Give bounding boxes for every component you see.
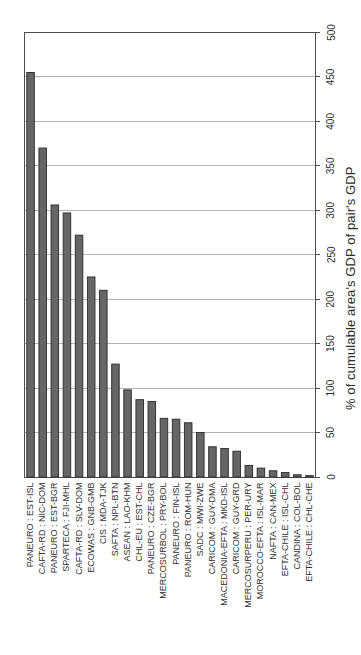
- x-category-label: CARICOM : GUY-DMA: [207, 483, 217, 575]
- x-category-label: PANEURO : CZE-BGR: [146, 482, 156, 574]
- bar: [51, 205, 59, 477]
- x-category-label: PANEURO : FIN-ISL: [171, 483, 181, 565]
- y-axis-ticks: [316, 33, 321, 478]
- bar: [39, 148, 47, 477]
- bar: [269, 471, 277, 477]
- y-tick-label: 50: [326, 427, 337, 439]
- x-category-label: MACEDONIA-EFTA : MKD-ISL: [219, 483, 229, 606]
- bar: [75, 235, 83, 477]
- y-tick-label: 500: [326, 24, 337, 41]
- x-category-label: CAFTA-RD : SLV-DOM: [74, 483, 84, 575]
- y-tick-label: 300: [326, 202, 337, 219]
- bar: [233, 451, 241, 477]
- x-category-label: NAFTA : CAN-MEX: [268, 483, 278, 560]
- y-tick-label: 100: [326, 379, 337, 396]
- y-tick-label: 450: [326, 68, 337, 85]
- x-category-label: CHL-EU : EST-CHL: [134, 483, 144, 562]
- bar: [184, 423, 192, 477]
- bar-chart-plot: 050100150200250300350400450500PANEURO : …: [0, 0, 361, 655]
- bar: [306, 476, 314, 477]
- bar: [136, 400, 144, 477]
- y-axis-title: % of cumulable area's GDP of pair's GDP: [343, 136, 361, 440]
- bar: [209, 447, 217, 477]
- bar: [63, 213, 71, 477]
- x-category-label: CARICOM : GUY-GRD: [231, 482, 241, 574]
- bar: [148, 401, 156, 477]
- bar: [87, 277, 95, 477]
- bar: [27, 73, 34, 478]
- bar: [160, 418, 168, 477]
- x-category-label: CANDINA : COL-BOL: [292, 483, 302, 570]
- bar: [172, 419, 180, 477]
- x-category-label: SAFTA : NPL-BTN: [110, 483, 120, 557]
- bar: [197, 433, 205, 477]
- x-category-label: CIS : MDA-TJK: [98, 483, 108, 545]
- y-tick-label: 150: [326, 335, 337, 352]
- x-category-label: EFTA-CHILE : CHL-CHE: [304, 483, 314, 582]
- y-tick-label: 0: [326, 474, 337, 480]
- x-category-label: CAFTA-RD : NIC-DOM: [37, 483, 47, 575]
- x-category-label: ASEAN : LAO-KHM: [122, 483, 132, 562]
- bar: [221, 449, 229, 477]
- bar: [245, 465, 253, 477]
- bar: [257, 468, 265, 477]
- x-category-label: PANEURO : EST-BGR: [49, 482, 59, 573]
- bar: [124, 390, 132, 477]
- x-category-label: PANEURO : ROM-HUN: [183, 483, 193, 578]
- y-tick-label: 400: [326, 113, 337, 130]
- bars: [27, 73, 313, 478]
- x-category-label: SADC : MWI-ZWE: [195, 483, 205, 557]
- x-category-label: ECOWAS : GNB-GMB: [86, 483, 96, 573]
- x-category-label: PANEURO : EST-ISL: [25, 483, 35, 568]
- bar: [294, 475, 302, 477]
- x-category-label: MOROCCO-EFTA : ISL-MAR: [255, 482, 265, 599]
- y-tick-label: 250: [326, 246, 337, 263]
- x-category-label: EFTA-CHILE : ISL-CHL: [280, 483, 290, 577]
- y-tick-label: 200: [326, 290, 337, 307]
- bar: [112, 364, 120, 477]
- bar: [100, 290, 108, 477]
- bar: [281, 473, 289, 477]
- bar-chart-figure: 050100150200250300350400450500PANEURO : …: [0, 0, 361, 655]
- x-category-label: SPARTECA : FJI-MHL: [61, 483, 71, 572]
- x-category-label: MERCOSURPERU : PER-URY: [243, 483, 253, 608]
- y-tick-label: 350: [326, 157, 337, 174]
- x-category-label: MERCOSURBOL : PRY-BOL: [158, 483, 168, 599]
